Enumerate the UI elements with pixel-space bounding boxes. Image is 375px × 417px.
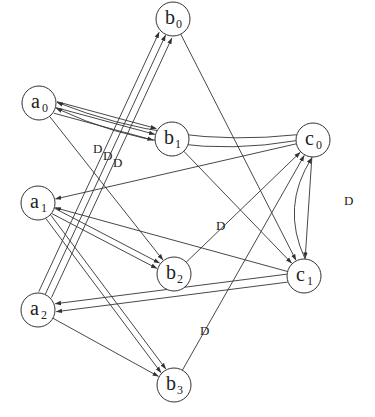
edge-a1-to-b2 <box>52 214 157 269</box>
node-a1: a1 <box>21 186 55 220</box>
edge-a1-to-b3 <box>46 218 161 372</box>
edge-a0-to-b1 <box>55 107 154 134</box>
node-subscript: 0 <box>176 17 182 31</box>
edge-label-delay: D <box>113 155 122 170</box>
edge-label-delay: D <box>216 218 225 233</box>
edge-c0-to-c1 <box>305 157 312 258</box>
node-subscript: 1 <box>307 274 313 288</box>
node-subscript: 2 <box>177 272 183 286</box>
edge-label-delay: D <box>93 141 102 156</box>
node-label: a <box>31 90 40 112</box>
node-label: b <box>166 372 176 394</box>
edge-labels-layer: DDDDDD <box>93 141 353 338</box>
node-label: a <box>30 190 39 212</box>
edge-label-delay: D <box>344 193 353 208</box>
node-b3: b3 <box>157 368 191 402</box>
node-subscript: 2 <box>41 308 47 322</box>
edge-label-delay: D <box>200 323 209 338</box>
node-c1: c1 <box>287 259 321 293</box>
node-b0: b0 <box>156 2 190 36</box>
node-a0: a0 <box>22 86 56 120</box>
edge-a2-to-b0 <box>45 35 165 294</box>
node-label: b <box>165 6 175 28</box>
node-subscript: 0 <box>316 138 322 152</box>
node-b1: b1 <box>155 122 189 156</box>
edge-a2-to-b0 <box>39 32 159 291</box>
nodes-layer: b0a0b1c0a1b2c1a2b3 <box>21 2 330 402</box>
edge-b0-to-c1 <box>181 34 296 260</box>
node-label: b <box>166 261 176 283</box>
edge-a2-to-b0 <box>52 38 172 297</box>
edge-label-delay: D <box>103 148 112 163</box>
node-c0: c0 <box>296 123 330 157</box>
node-subscript: 3 <box>177 383 183 397</box>
node-label: c <box>296 263 305 285</box>
node-label: a <box>30 297 39 319</box>
edge-b2-to-c0 <box>186 152 300 262</box>
node-label: c <box>305 127 314 149</box>
edge-c1-to-c0 <box>294 158 312 259</box>
node-subscript: 0 <box>42 101 48 115</box>
graph-diagram: DDDDDD b0a0b1c0a1b2c1a2b3 <box>0 0 375 417</box>
node-a2: a2 <box>21 293 55 327</box>
node-label: b <box>164 126 174 148</box>
edge-b3-to-c0 <box>182 156 304 371</box>
edges-layer <box>39 32 312 376</box>
node-b2: b2 <box>157 257 191 291</box>
node-subscript: 1 <box>41 201 47 215</box>
node-subscript: 1 <box>175 137 181 151</box>
